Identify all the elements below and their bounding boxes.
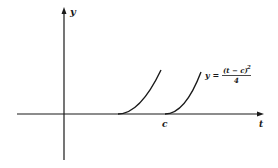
y-axis-arrow-icon	[62, 7, 67, 14]
c-tick-label: c	[162, 119, 168, 129]
diagram-canvas: y t c y = (t − c) 2 4	[0, 0, 278, 168]
formula-lhs: y =	[204, 70, 219, 80]
t-axis-label: t	[259, 119, 264, 129]
formula-denominator: 4	[234, 76, 239, 85]
curve-unshifted	[118, 70, 161, 114]
curve-formula: y = (t − c) 2 4	[204, 64, 251, 85]
formula-exponent: 2	[246, 64, 251, 70]
t-axis-arrow-icon	[257, 112, 264, 117]
formula-numerator: (t − c)	[223, 66, 248, 75]
y-axis-label: y	[69, 6, 77, 17]
curve-shifted	[165, 72, 201, 114]
